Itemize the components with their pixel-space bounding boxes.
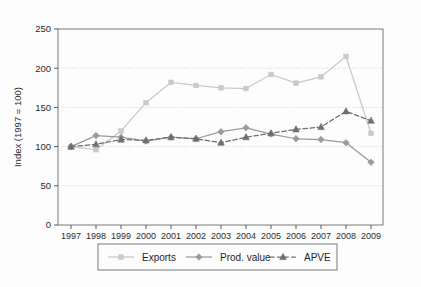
- y-tick-label-200: 200: [35, 63, 51, 74]
- x-tick-label-1999: 1999: [111, 231, 131, 241]
- square-marker-icon: [119, 255, 124, 260]
- data-point-1998: [94, 147, 99, 152]
- data-point-2008: [344, 54, 349, 59]
- x-tick-label-2006: 2006: [286, 231, 306, 241]
- data-point-2000: [144, 100, 149, 105]
- y-tick-label-250: 250: [35, 23, 51, 34]
- x-tick-label-2002: 2002: [186, 231, 206, 241]
- x-tick-label-1997: 1997: [61, 231, 81, 241]
- legend-label: Exports: [142, 252, 176, 263]
- x-tick-label-2003: 2003: [211, 231, 231, 241]
- legend-label: APVE: [304, 252, 331, 263]
- data-point-2005: [269, 72, 274, 77]
- y-tick-label-150: 150: [35, 102, 51, 113]
- data-point-2009: [369, 131, 374, 136]
- data-point-2007: [319, 75, 324, 80]
- x-tick-label-2001: 2001: [161, 231, 181, 241]
- chart-legend: ExportsProd. valueAPVE: [98, 244, 337, 270]
- data-point-2002: [194, 83, 199, 88]
- x-tick-label-2004: 2004: [236, 231, 256, 241]
- y-axis-title: Index (1997 = 100): [12, 87, 23, 167]
- x-tick-label-2009: 2009: [361, 231, 381, 241]
- y-tick-label-0: 0: [46, 219, 51, 230]
- x-tick-label-1998: 1998: [86, 231, 106, 241]
- data-point-2006: [294, 81, 299, 86]
- x-tick-label-2000: 2000: [136, 231, 156, 241]
- data-point-2003: [219, 86, 224, 91]
- data-point-2004: [244, 86, 249, 91]
- x-tick-label-2005: 2005: [261, 231, 281, 241]
- x-tick-label-2007: 2007: [311, 231, 331, 241]
- data-point-2001: [169, 80, 174, 85]
- chart-figure: 050100150200250 199719981999200020012002…: [0, 0, 421, 287]
- legend-label: Prod. value: [220, 252, 271, 263]
- y-tick-label-50: 50: [40, 180, 51, 191]
- data-point-1999: [119, 129, 124, 134]
- y-axis-title-text: Index (1997 = 100): [12, 87, 23, 167]
- line-chart: 050100150200250 199719981999200020012002…: [0, 0, 421, 287]
- y-tick-label-100: 100: [35, 141, 51, 152]
- x-tick-label-2008: 2008: [336, 231, 356, 241]
